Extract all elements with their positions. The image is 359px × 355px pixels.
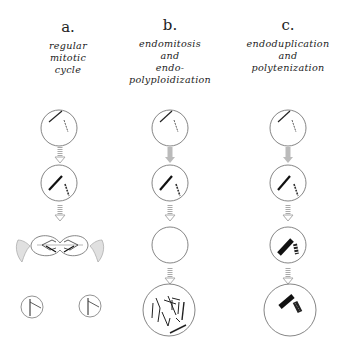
polytene-chromosome (279, 240, 292, 254)
arrow-down-icon (165, 147, 175, 163)
chromosome (88, 301, 99, 307)
polytene-chromosome (295, 244, 297, 254)
chromosome (176, 184, 180, 196)
arrow-down-icon (165, 268, 175, 284)
arrow-down-icon (283, 147, 293, 163)
chromosome (174, 120, 178, 132)
col-a-interphase-cell (41, 110, 77, 146)
chromosome (278, 111, 290, 122)
col-c-polytene-cell (270, 227, 306, 263)
col-c-polytene-cell-large (264, 284, 316, 336)
col-b-empty-cell (152, 227, 188, 263)
col-c-interphase-cell (270, 110, 306, 146)
arrow-down-icon (283, 268, 293, 284)
col-c-g2-cell (270, 165, 306, 201)
chromosome (65, 184, 69, 196)
col-b-polyploid-cell (143, 284, 195, 336)
chromosome (49, 176, 62, 190)
col-a-g2-cell (41, 165, 77, 201)
chromosome (168, 318, 170, 326)
chromosome (152, 303, 153, 318)
arrow-down-icon (55, 205, 65, 221)
arrow-down-icon (283, 205, 293, 221)
col-a-dividing-cell (16, 236, 103, 262)
chromosome (178, 302, 179, 314)
cell-cycle-diagram (0, 0, 359, 355)
chromosome (292, 120, 296, 132)
col-b-g2-cell (152, 165, 188, 201)
col-a-daughter-cell-right (79, 295, 101, 317)
col-a-daughter-cell-left (21, 296, 43, 318)
chromosome (158, 308, 160, 322)
chromosome (64, 120, 68, 132)
chromosome (294, 184, 298, 196)
chromosome (162, 312, 168, 326)
chromosome (182, 302, 184, 320)
chromosome (30, 302, 41, 308)
chromosome (278, 176, 290, 190)
chromosome (176, 318, 180, 322)
polytene-chromosome (280, 296, 293, 307)
chromosome (172, 298, 180, 300)
col-b-interphase-cell (152, 110, 188, 146)
chromosome (160, 176, 172, 190)
chromosome (156, 298, 160, 308)
chromosome (160, 111, 172, 122)
aster (90, 240, 104, 262)
arrow-down-icon (165, 205, 175, 221)
arrow-down-icon (55, 147, 65, 163)
aster (16, 240, 30, 262)
chromosome (49, 111, 62, 122)
